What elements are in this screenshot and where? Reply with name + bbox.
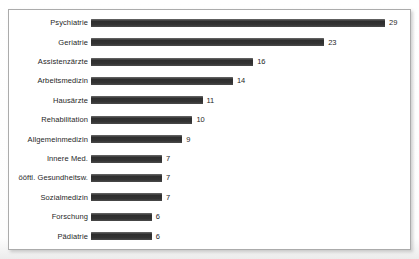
chart-row: Sozialmedizin7 (9, 188, 410, 207)
bar (91, 77, 233, 85)
category-label: Pädiatrie (9, 232, 91, 241)
bar (91, 232, 152, 240)
bar (91, 193, 162, 201)
category-label: Innere Med. (9, 154, 91, 163)
bar (91, 135, 182, 143)
chart-row: Assistenzärzte16 (9, 52, 410, 71)
chart-rows: Psychiatrie29Geriatrie23Assistenzärzte16… (9, 13, 410, 246)
category-label: Hausärzte (9, 96, 91, 105)
data-label: 7 (166, 154, 170, 163)
data-label: 23 (328, 38, 336, 47)
data-label: 14 (237, 76, 245, 85)
category-label: Assistenzärzte (9, 57, 91, 66)
chart-row: Allgemeinmedizin9 (9, 130, 410, 149)
category-label: Geriatrie (9, 38, 91, 47)
data-label: 6 (156, 212, 160, 221)
bar (91, 155, 162, 163)
chart-row: Pädiatrie6 (9, 227, 410, 246)
chart-page: Psychiatrie29Geriatrie23Assistenzärzte16… (0, 0, 419, 259)
data-label: 6 (156, 232, 160, 241)
chart-row: Arbeitsmedizin14 (9, 71, 410, 90)
category-label: Rehabilitation (9, 115, 91, 124)
category-label: ööftl. Gesundheitsw. (9, 173, 91, 182)
chart-row: Psychiatrie29 (9, 13, 410, 32)
chart-row: ööftl. Gesundheitsw.7 (9, 168, 410, 187)
data-label: 10 (196, 115, 204, 124)
category-label: Allgemeinmedizin (9, 135, 91, 144)
chart-row: Rehabilitation10 (9, 110, 410, 129)
bar-chart-frame: Psychiatrie29Geriatrie23Assistenzärzte16… (8, 9, 411, 250)
data-label: 7 (166, 173, 170, 182)
chart-row: Innere Med.7 (9, 149, 410, 168)
chart-row: Forschung6 (9, 207, 410, 226)
data-label: 29 (389, 18, 397, 27)
bar (91, 174, 162, 182)
chart-row: Geriatrie23 (9, 33, 410, 52)
bar (91, 116, 192, 124)
bar (91, 38, 324, 46)
data-label: 11 (207, 96, 215, 105)
data-label: 7 (166, 193, 170, 202)
data-label: 9 (186, 135, 190, 144)
category-label: Forschung (9, 212, 91, 221)
chart-row: Hausärzte11 (9, 91, 410, 110)
data-label: 16 (257, 57, 265, 66)
category-label: Arbeitsmedizin (9, 76, 91, 85)
category-label: Psychiatrie (9, 18, 91, 27)
bar (91, 19, 385, 27)
bar (91, 96, 203, 104)
bar (91, 58, 253, 66)
category-label: Sozialmedizin (9, 193, 91, 202)
bar (91, 213, 152, 221)
